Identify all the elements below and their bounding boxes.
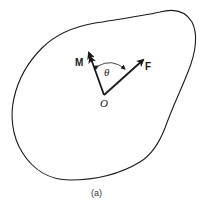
body-outline: [12, 10, 195, 180]
moment-label: M: [75, 58, 83, 68]
force-label: F: [145, 62, 151, 72]
figure-caption: (a): [91, 189, 102, 198]
force-vector: [104, 60, 143, 95]
angle-arc: [98, 63, 125, 69]
origin-label: O: [100, 98, 108, 109]
moment-vector-second-head: [90, 57, 92, 62]
angle-label: θ: [104, 67, 109, 78]
